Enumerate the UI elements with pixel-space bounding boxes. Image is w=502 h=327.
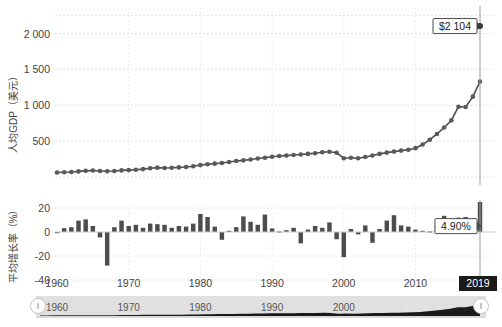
growth-bar[interactable] [126, 226, 130, 232]
growth-bar[interactable] [69, 227, 73, 232]
data-point[interactable] [141, 167, 146, 172]
data-point[interactable] [420, 142, 425, 147]
growth-bar[interactable] [385, 221, 389, 232]
data-point[interactable] [248, 157, 253, 162]
data-point[interactable] [356, 156, 361, 161]
growth-bar[interactable] [169, 228, 173, 232]
data-point[interactable] [449, 118, 454, 123]
growth-bar[interactable] [313, 226, 317, 232]
data-point[interactable] [385, 150, 390, 155]
growth-bar[interactable] [98, 232, 102, 237]
gdp-value-callout[interactable]: $2 104 [433, 19, 482, 34]
data-point[interactable] [91, 168, 96, 173]
data-point[interactable] [471, 94, 476, 99]
growth-bar[interactable] [134, 225, 138, 232]
data-point[interactable] [191, 164, 196, 169]
data-point[interactable] [155, 165, 160, 170]
growth-bar[interactable] [112, 227, 116, 232]
data-point[interactable] [320, 150, 325, 155]
growth-bar[interactable] [299, 232, 303, 243]
data-point[interactable] [327, 149, 332, 154]
data-point[interactable] [363, 155, 368, 160]
growth-bar[interactable] [191, 224, 195, 232]
data-point[interactable] [212, 161, 217, 166]
data-point[interactable] [162, 166, 167, 171]
data-point[interactable] [105, 169, 110, 174]
growth-bar[interactable] [162, 225, 166, 232]
growth-bar[interactable] [198, 214, 202, 232]
data-point[interactable] [334, 150, 339, 155]
data-point[interactable] [112, 169, 117, 174]
data-point[interactable] [126, 168, 131, 173]
data-point[interactable] [442, 125, 447, 130]
growth-value-callout[interactable]: 4.90% [435, 219, 482, 234]
highlighted-point[interactable] [477, 23, 483, 29]
data-point[interactable] [349, 155, 354, 160]
data-point[interactable] [169, 166, 174, 171]
data-point[interactable] [198, 163, 203, 168]
growth-bar[interactable] [184, 227, 188, 232]
growth-bar[interactable] [83, 219, 87, 232]
growth-bar[interactable] [248, 222, 252, 232]
data-point[interactable] [392, 149, 397, 154]
navigator-handle-left[interactable] [31, 299, 46, 314]
data-point[interactable] [62, 170, 67, 175]
data-point[interactable] [69, 170, 74, 175]
growth-bar[interactable] [320, 228, 324, 232]
data-point[interactable] [428, 137, 433, 142]
year-badge[interactable]: 2019 [459, 276, 497, 291]
data-point[interactable] [234, 159, 239, 164]
growth-bar[interactable] [177, 226, 181, 232]
data-point[interactable] [241, 158, 246, 163]
data-point[interactable] [119, 168, 124, 173]
data-point[interactable] [220, 161, 225, 166]
data-point[interactable] [284, 153, 289, 158]
data-point[interactable] [177, 165, 182, 170]
growth-bar[interactable] [76, 221, 80, 232]
data-point[interactable] [341, 156, 346, 161]
growth-bar[interactable] [241, 216, 245, 232]
growth-bar[interactable] [342, 232, 346, 257]
data-point[interactable] [306, 152, 311, 157]
growth-bar[interactable] [406, 227, 410, 232]
navigator-handle-right[interactable] [474, 299, 489, 314]
data-point[interactable] [134, 167, 139, 172]
data-point[interactable] [255, 156, 260, 161]
data-point[interactable] [270, 154, 275, 159]
data-point[interactable] [263, 155, 268, 160]
growth-bar[interactable] [291, 228, 295, 232]
range-navigator[interactable]: 196019701980199020002010 [0, 294, 502, 327]
growth-bar[interactable] [370, 232, 374, 243]
growth-bar[interactable] [256, 225, 260, 232]
data-point[interactable] [76, 169, 81, 174]
growth-bar[interactable] [334, 232, 338, 239]
growth-bar[interactable] [263, 215, 267, 232]
data-point[interactable] [298, 152, 303, 157]
growth-bar[interactable] [270, 228, 274, 232]
data-point[interactable] [55, 170, 60, 175]
growth-bar[interactable] [91, 226, 95, 232]
data-point[interactable] [435, 132, 440, 137]
data-point[interactable] [413, 146, 418, 151]
data-point[interactable] [370, 153, 375, 158]
growth-bar[interactable] [155, 224, 159, 232]
data-point[interactable] [313, 151, 318, 156]
data-point[interactable] [456, 104, 461, 109]
data-point[interactable] [463, 105, 468, 110]
growth-bar[interactable] [205, 217, 209, 232]
data-point[interactable] [399, 148, 404, 153]
growth-bar[interactable] [141, 228, 145, 232]
growth-bar[interactable] [234, 227, 238, 232]
data-point[interactable] [377, 152, 382, 157]
growth-bar[interactable] [392, 215, 396, 232]
growth-bar[interactable] [399, 225, 403, 232]
growth-bar[interactable] [119, 221, 123, 232]
data-point[interactable] [227, 160, 232, 165]
growth-bar[interactable] [105, 232, 109, 266]
data-point[interactable] [277, 154, 282, 159]
data-point[interactable] [291, 153, 296, 158]
growth-bar[interactable] [148, 224, 152, 232]
growth-bar[interactable] [363, 225, 367, 232]
growth-bar[interactable] [213, 227, 217, 232]
data-point[interactable] [184, 165, 189, 170]
